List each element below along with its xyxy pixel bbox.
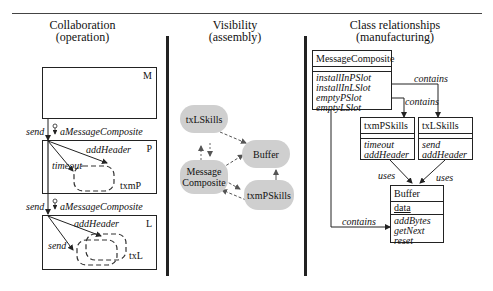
- label-uses-right: uses: [436, 172, 453, 183]
- op-addheader: addHeader: [422, 150, 469, 160]
- class-txlskills: txLSkills send addHeader: [418, 117, 473, 160]
- node-txlskills: txLSkills: [180, 105, 228, 133]
- node-label: Buffer: [253, 149, 279, 160]
- class-messagecomposite: MessageComposite installInPSlot installI…: [312, 50, 392, 110]
- node-label-line2: Composite: [182, 177, 225, 188]
- class-txmpskills: txmPSkills timeout addHeader: [360, 117, 415, 160]
- node-buffer: Buffer: [242, 140, 290, 168]
- node-label: txLSkills: [186, 114, 223, 125]
- class-attr-data: data: [391, 202, 443, 215]
- op-reset: reset: [394, 236, 440, 246]
- class-name: Buffer: [391, 186, 443, 202]
- class-ops: timeout addHeader: [361, 139, 414, 161]
- class-name: MessageComposite: [313, 51, 391, 67]
- class-ops: send addHeader: [419, 139, 472, 161]
- class-ops: addBytes getNext reset: [391, 215, 443, 247]
- label-contains-bottom: contains: [342, 216, 376, 227]
- node-txmpskills: txmPSkills: [244, 180, 294, 210]
- class-buffer: Buffer data addBytes getNext reset: [390, 185, 444, 243]
- node-messagecomposite: Message Composite: [180, 160, 228, 194]
- op-addheader: addHeader: [364, 150, 411, 160]
- class-name: txmPSkills: [361, 118, 414, 134]
- label-uses-left: uses: [378, 170, 395, 181]
- label-contains-mid: contains: [405, 96, 439, 107]
- op-emptylslot: emptyLSlot: [316, 103, 388, 113]
- node-label-line1: Message: [187, 166, 222, 177]
- label-contains-top: contains: [414, 73, 448, 84]
- class-ops: installInPSlot installInLSlot emptyPSlot…: [313, 72, 391, 114]
- class-name: txLSkills: [419, 118, 472, 134]
- node-label: txmPSkills: [247, 190, 291, 201]
